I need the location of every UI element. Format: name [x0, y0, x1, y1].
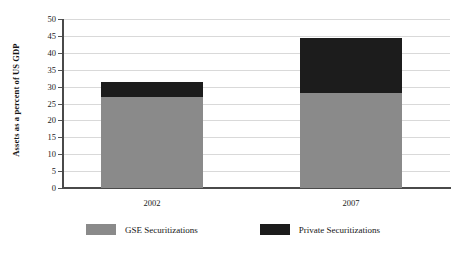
- bar-segment-2002-private: [101, 82, 203, 97]
- legend-label: GSE Securitizations: [125, 225, 198, 235]
- y-tick-label: 10: [48, 150, 57, 159]
- bar-2002: [101, 19, 203, 188]
- legend-swatch-icon: [86, 224, 116, 235]
- y-axis-title: Assets as a percent of US GDP: [11, 10, 21, 190]
- y-tick-label: 45: [48, 32, 57, 41]
- y-tick-label: 30: [48, 82, 57, 91]
- x-tick-label-2002: 2002: [92, 198, 212, 208]
- y-tick-label: 40: [48, 49, 57, 58]
- legend-label: Private Securitizations: [299, 225, 380, 235]
- y-tick-label: 25: [48, 99, 57, 108]
- legend-item: GSE Securitizations: [86, 224, 198, 235]
- y-tick-label: 20: [48, 116, 57, 125]
- y-tick-label: 15: [48, 133, 57, 142]
- bar-segment-2002-gse: [101, 97, 203, 188]
- legend-swatch-icon: [260, 224, 290, 235]
- bar-2007: [300, 19, 402, 188]
- y-axis-line: [62, 19, 64, 189]
- x-tick-label-2007: 2007: [291, 198, 411, 208]
- y-tick-label: 5: [52, 167, 56, 176]
- y-tick-label: 50: [48, 15, 57, 24]
- legend-item: Private Securitizations: [260, 224, 380, 235]
- plot-area: 05101520253035404550 20022007: [63, 19, 450, 188]
- y-tick-label: 0: [52, 184, 56, 193]
- bar-segment-2007-gse: [300, 93, 402, 188]
- bar-segment-2007-private: [300, 38, 402, 94]
- chart-figure: Assets as a percent of US GDP 0510152025…: [0, 0, 466, 253]
- y-tick-label: 35: [48, 65, 57, 74]
- chart-legend: GSE SecuritizationsPrivate Securitizatio…: [0, 224, 466, 235]
